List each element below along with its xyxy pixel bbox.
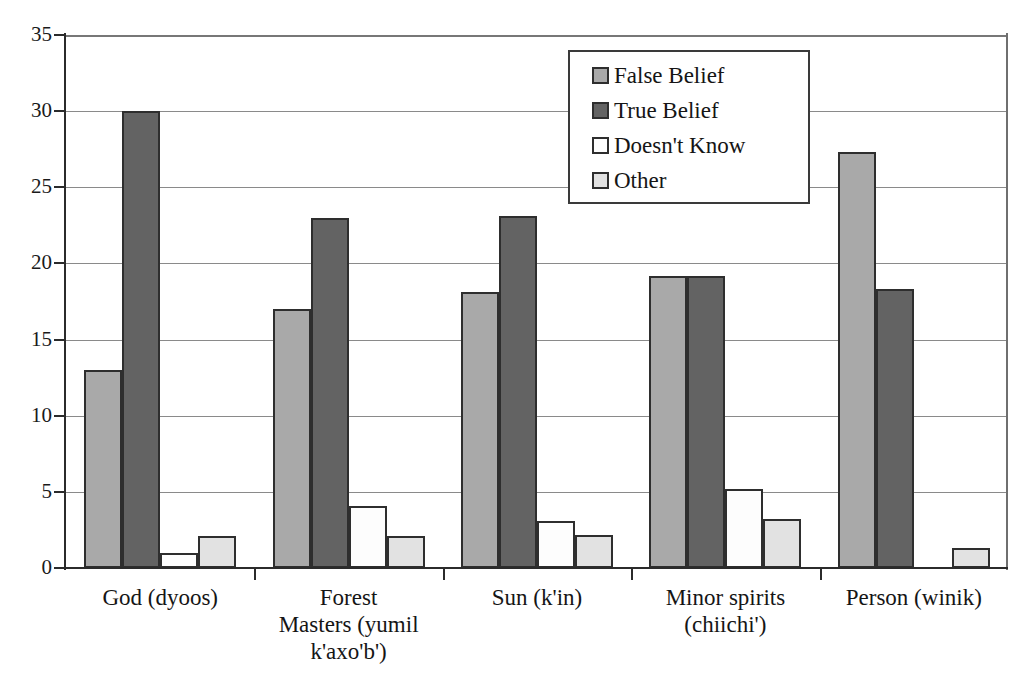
y-tick-label-0: 0 bbox=[6, 557, 52, 578]
y-tick-label-wrap-10: 10 bbox=[0, 405, 52, 426]
legend-swatch-false-belief bbox=[592, 67, 609, 84]
legend-label-doesnt-know: Doesn't Know bbox=[614, 134, 745, 157]
legend-swatch-true-belief bbox=[592, 102, 609, 119]
x-tick-mark-3 bbox=[631, 569, 633, 580]
bar-group-5-series-4 bbox=[952, 548, 990, 568]
x-category-label-4: Minor spirits(chiichi') bbox=[619, 584, 831, 638]
legend-item-doesnt-know: Doesn't Know bbox=[592, 128, 808, 163]
gridline-35 bbox=[66, 35, 1008, 37]
bar-group-5-series-2 bbox=[876, 289, 914, 568]
y-tick-label-wrap-15: 15 bbox=[0, 329, 52, 350]
gridline-30 bbox=[66, 111, 1008, 112]
legend-item-other: Other bbox=[592, 163, 808, 198]
y-tick-label-wrap-30: 30 bbox=[0, 100, 52, 121]
legend-label-other: Other bbox=[614, 169, 666, 192]
x-category-label-4-line-1: Minor spirits bbox=[619, 584, 831, 611]
legend-label-true-belief: True Belief bbox=[614, 99, 719, 122]
x-category-label-3: Sun (k'in) bbox=[431, 584, 643, 611]
x-category-label-2-line-3: k'axo'b') bbox=[242, 638, 454, 665]
x-category-label-2-line-1: Forest bbox=[242, 584, 454, 611]
bar-group-1-series-4 bbox=[198, 536, 236, 568]
bar-group-2-series-4 bbox=[387, 536, 425, 568]
bar-group-3-series-4 bbox=[575, 535, 613, 569]
x-tick-mark-2 bbox=[443, 569, 445, 580]
bar-group-3-series-3 bbox=[537, 521, 575, 568]
x-category-label-2-line-2: Masters (yumil bbox=[242, 611, 454, 638]
bar-group-4-series-1 bbox=[649, 276, 687, 568]
bar-group-2-series-2 bbox=[311, 218, 349, 568]
bar-group-2-series-1 bbox=[273, 309, 311, 568]
x-category-label-1-line-1: God (dyoos) bbox=[54, 584, 266, 611]
legend-swatch-other bbox=[592, 172, 609, 189]
bar-group-4-series-2 bbox=[687, 276, 725, 568]
bar-group-3-series-2 bbox=[499, 216, 537, 568]
y-tick-label-wrap-35: 35 bbox=[0, 24, 52, 45]
plot-right-border bbox=[1006, 33, 1008, 570]
y-axis-line bbox=[64, 33, 66, 570]
y-tick-label-20: 20 bbox=[6, 252, 52, 273]
y-tick-label-5: 5 bbox=[6, 481, 52, 502]
y-tick-label-30: 30 bbox=[6, 100, 52, 121]
chart-page: 05101520253035 God (dyoos)ForestMasters … bbox=[0, 0, 1025, 694]
bar-group-5-series-1 bbox=[838, 152, 876, 568]
x-category-label-3-line-1: Sun (k'in) bbox=[431, 584, 643, 611]
legend-label-false-belief: False Belief bbox=[614, 64, 725, 87]
x-category-label-1: God (dyoos) bbox=[54, 584, 266, 611]
x-category-label-4-line-2: (chiichi') bbox=[619, 611, 831, 638]
x-tick-mark-1 bbox=[254, 569, 256, 580]
y-tick-label-wrap-0: 0 bbox=[0, 557, 52, 578]
plot-area bbox=[66, 35, 1008, 568]
bar-group-4-series-3 bbox=[725, 489, 763, 568]
x-category-label-2: ForestMasters (yumilk'axo'b') bbox=[242, 584, 454, 665]
y-tick-label-wrap-25: 25 bbox=[0, 176, 52, 197]
bar-group-1-series-3 bbox=[160, 553, 198, 568]
y-tick-label-wrap-5: 5 bbox=[0, 481, 52, 502]
x-axis-line bbox=[64, 567, 1008, 569]
y-tick-label-25: 25 bbox=[6, 176, 52, 197]
y-tick-label-10: 10 bbox=[6, 405, 52, 426]
legend-item-true-belief: True Belief bbox=[592, 93, 808, 128]
y-tick-label-15: 15 bbox=[6, 329, 52, 350]
x-category-label-5-line-1: Person (winik) bbox=[808, 584, 1020, 611]
x-category-label-5: Person (winik) bbox=[808, 584, 1020, 611]
bar-group-4-series-4 bbox=[763, 519, 801, 568]
x-tick-mark-4 bbox=[820, 569, 822, 580]
y-tick-label-wrap-20: 20 bbox=[0, 252, 52, 273]
bar-group-1-series-2 bbox=[122, 111, 160, 568]
chart-legend: False Belief True Belief Doesn't Know Ot… bbox=[568, 50, 810, 204]
bar-group-2-series-3 bbox=[349, 506, 387, 568]
bar-group-1-series-1 bbox=[84, 370, 122, 568]
y-tick-label-35: 35 bbox=[6, 24, 52, 45]
bar-group-3-series-1 bbox=[461, 292, 499, 568]
legend-swatch-doesnt-know bbox=[592, 137, 609, 154]
legend-item-false-belief: False Belief bbox=[592, 58, 808, 93]
